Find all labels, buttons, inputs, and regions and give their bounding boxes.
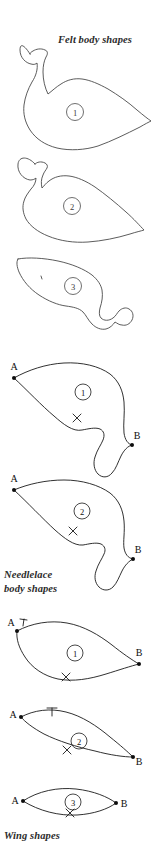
needlelace-shape-1-label-b: B	[134, 430, 141, 441]
felt-body-shapes-caption: Felt body shapes	[58, 33, 132, 47]
felt-shape-1-number: 1	[73, 108, 77, 118]
felt-shape-3-number: 3	[71, 282, 75, 292]
wing-shape-3-point-b-dot	[114, 801, 118, 805]
wing-shape-3-label-a: A	[11, 795, 19, 806]
wing-shape-2-point-b-dot	[131, 755, 135, 759]
wing-shape-2-number: 2	[77, 737, 81, 747]
felt-shape-2-outline	[18, 158, 144, 242]
felt-shape-1-outline	[20, 46, 151, 150]
felt-shape-2: 2	[18, 158, 144, 242]
wing-shapes-caption: Wing shapes	[4, 829, 60, 843]
wing-shape-2-tick-t	[47, 708, 57, 716]
wing-shape-1-label-b: B	[136, 647, 143, 658]
wing-shape-2-point-a-dot	[19, 715, 23, 719]
felt-shape-3-mark	[41, 276, 42, 279]
wing-shape-1-outline	[17, 622, 139, 680]
wing-shape-1-point-a-dot	[15, 629, 19, 633]
wing-shape-2-label-a: A	[9, 709, 17, 720]
wing-shape-2: 2 A B	[9, 708, 142, 767]
needlelace-body-shapes-caption: Needlelace body shapes	[4, 568, 57, 596]
wing-shape-3: 3 A B	[11, 789, 127, 818]
needlelace-shape-1-number: 1	[81, 388, 85, 398]
needlelace-shape-2-label-b: B	[135, 544, 142, 555]
wing-shape-1-tick-t	[20, 619, 27, 626]
pattern-diagram-svg: 1 2 3 1 A B	[0, 0, 159, 856]
wing-shape-3-number: 3	[71, 798, 75, 808]
wing-shape-3-cross-mark	[66, 809, 74, 817]
wing-shape-1-label-a: A	[7, 617, 15, 628]
wing-shape-2-label-b: B	[136, 756, 143, 767]
pattern-sheet: 1 2 3 1 A B	[0, 0, 159, 856]
felt-shape-1: 1	[20, 46, 151, 150]
needlelace-shape-1: 1 A B	[10, 361, 140, 477]
felt-shape-3-outline	[17, 258, 133, 329]
needlelace-shape-1-outline	[14, 363, 132, 477]
needlelace-shape-1-point-a-dot	[12, 376, 16, 380]
wing-shape-3-outline	[23, 789, 116, 816]
needlelace-shape-2-cross-mark	[69, 527, 77, 535]
wing-shape-3-point-a-dot	[21, 799, 25, 803]
felt-shape-2-number: 2	[70, 202, 74, 212]
wing-shape-3-label-b: B	[121, 798, 128, 809]
wing-shape-1-point-b-dot	[137, 662, 141, 666]
felt-shape-3: 3	[17, 258, 133, 329]
needlelace-shape-2-label-a: A	[10, 473, 18, 484]
needlelace-shape-1-point-b-dot	[130, 443, 134, 447]
needlelace-shape-1-label-a: A	[10, 361, 18, 372]
needlelace-shape-1-cross-mark	[73, 414, 81, 422]
wing-shape-1: 1 A B	[7, 617, 142, 682]
needlelace-shape-2-point-b-dot	[131, 557, 135, 561]
needlelace-shape-2-point-a-dot	[12, 488, 16, 492]
wing-shape-1-number: 1	[73, 649, 77, 659]
wing-shape-2-cross-mark	[63, 746, 71, 754]
needlelace-shape-2-number: 2	[80, 507, 84, 517]
